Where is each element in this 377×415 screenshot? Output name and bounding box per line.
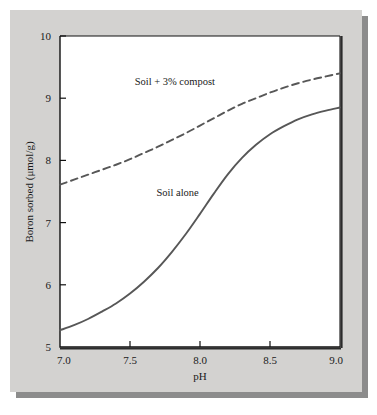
y-tick-label: 9 (46, 92, 52, 104)
y-axis-tick-labels: 5678910 (40, 30, 52, 353)
x-axis-tick-labels: 7.07.58.08.59.0 (57, 354, 344, 366)
x-axis-title: pH (193, 370, 207, 382)
x-tick-label: 8.5 (263, 354, 277, 366)
series-label: Soil + 3% compost (135, 76, 215, 87)
chart-svg: 5678910 7.07.58.08.59.0 pH Boron sorbed … (0, 0, 377, 415)
series-label: Soil alone (156, 187, 199, 198)
y-tick-label: 6 (46, 279, 52, 291)
figure-container: 5678910 7.07.58.08.59.0 pH Boron sorbed … (0, 0, 377, 415)
x-tick-label: 7.0 (57, 354, 71, 366)
x-tick-label: 7.5 (123, 354, 137, 366)
x-tick-label: 8.0 (193, 354, 207, 366)
y-tick-label: 8 (46, 154, 52, 166)
x-tick-label: 9.0 (329, 354, 343, 366)
y-tick-label: 7 (46, 217, 52, 229)
y-axis-title: Boron sorbed (μmol/g) (23, 141, 36, 243)
y-tick-label: 5 (46, 341, 52, 353)
y-tick-label: 10 (40, 30, 52, 42)
